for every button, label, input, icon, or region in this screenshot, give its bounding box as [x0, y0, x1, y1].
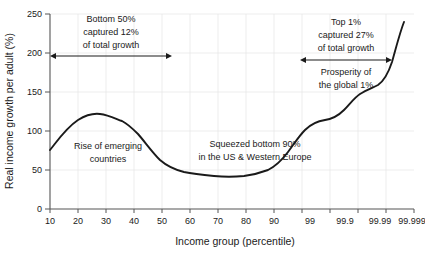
y-tick-label-200: 200 [27, 48, 42, 58]
x-tick-label-99-9: 99.9 [336, 216, 354, 226]
x-tick-label-40: 40 [129, 216, 139, 226]
x-tick-label-99: 99 [305, 216, 315, 226]
annotation-bottom-50-line-2: captured 12% [83, 27, 139, 37]
elephant-curve-chart: 0 50 100 150 200 250 10 20 30 40 50 60 7… [0, 0, 425, 257]
annotation-rise-emerging-line-2: countries [90, 154, 127, 164]
x-tick-label-30: 30 [101, 216, 111, 226]
annotation-bottom-50: Bottom 50% captured 12% of total growth [83, 14, 140, 50]
annotation-bottom-50-line-1: Bottom 50% [86, 14, 135, 24]
annotation-rise-emerging-line-1: Rise of emerging [74, 141, 142, 151]
annotation-bottom-50-line-3: of total growth [83, 40, 140, 50]
x-axis-title: Income group (percentile) [175, 235, 295, 247]
y-axis-title: Real income growth per adult (%) [3, 33, 15, 189]
x-tick-label-70: 70 [213, 216, 223, 226]
x-tick-label-10: 10 [45, 216, 55, 226]
x-tick-label-60: 60 [185, 216, 195, 226]
y-tick-label-50: 50 [32, 165, 42, 175]
y-tick-label-0: 0 [37, 204, 42, 214]
annotation-prosperity-line-1: Prosperity of [321, 67, 372, 77]
annotation-top-1-line-2: captured 27% [318, 30, 374, 40]
annotation-top-1-line-1: Top 1% [331, 17, 361, 27]
x-tick-label-50: 50 [157, 216, 167, 226]
annotation-squeezed-line-1: Squeezed bottom 90% [209, 139, 300, 149]
annotation-prosperity-line-2: the global 1% [319, 80, 374, 90]
y-tick-label-150: 150 [27, 87, 42, 97]
x-tick-label-20: 20 [73, 216, 83, 226]
x-tick-label-99-99: 99.99 [369, 216, 392, 226]
x-tick-label-80: 80 [241, 216, 251, 226]
y-tick-label-250: 250 [27, 9, 42, 19]
chart-svg: 0 50 100 150 200 250 10 20 30 40 50 60 7… [0, 0, 425, 257]
y-tick-label-100: 100 [27, 126, 42, 136]
annotation-top-1-line-3: of total growth [318, 43, 375, 53]
x-tick-label-90: 90 [269, 216, 279, 226]
annotation-squeezed-line-2: in the US & Western Europe [199, 152, 312, 162]
x-tick-label-99-999: 99.999 [398, 216, 425, 226]
